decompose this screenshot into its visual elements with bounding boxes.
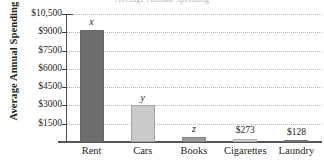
x-axis-category-label: Rent <box>82 145 102 157</box>
bar-value-label: $128 <box>287 128 306 138</box>
bar-slot: $273 <box>220 14 271 142</box>
y-axis-tick-label: $9000 <box>18 27 62 37</box>
bar[interactable] <box>131 105 155 142</box>
chart-title-text: Average Annual Spending <box>115 0 209 4</box>
x-axis-category-label: Cars <box>133 145 152 157</box>
y-axis-tick-label: $4500 <box>18 82 62 92</box>
y-axis-tick-labels: $1500$3000$4500$6000$7500$9000$10,500 <box>18 0 62 164</box>
bar[interactable] <box>182 137 206 142</box>
bar-slot: x <box>66 14 117 142</box>
y-axis-tick-label: $3000 <box>18 100 62 110</box>
bar-value-label: z <box>192 124 196 134</box>
x-axis-tick-labels: RentCarsBooksCigarettesLaundry <box>66 145 322 163</box>
bar-slot: y <box>117 14 168 142</box>
bar[interactable] <box>284 140 308 142</box>
bar-slot: $128 <box>271 14 322 142</box>
bar-slot: z <box>168 14 219 142</box>
bar-chart-figure: Average Annual Spending Average Annual S… <box>0 0 324 164</box>
x-axis-category-label: Cigarettes <box>224 145 267 157</box>
bar-series: xyz$273$128 <box>66 14 322 142</box>
x-axis-category-label: Books <box>181 145 208 157</box>
bar-value-label: $273 <box>236 126 255 136</box>
bar[interactable] <box>80 30 104 142</box>
bar-value-label: x <box>89 17 93 27</box>
y-axis-tick-label: $7500 <box>18 46 62 56</box>
bar[interactable] <box>233 139 257 142</box>
y-axis-tick-label: $6000 <box>18 64 62 74</box>
y-axis-tick-label: $10,500 <box>18 9 62 19</box>
x-axis-category-label: Laundry <box>279 145 315 157</box>
y-axis-tick-label: $1500 <box>18 119 62 129</box>
bar-value-label: y <box>141 93 145 103</box>
